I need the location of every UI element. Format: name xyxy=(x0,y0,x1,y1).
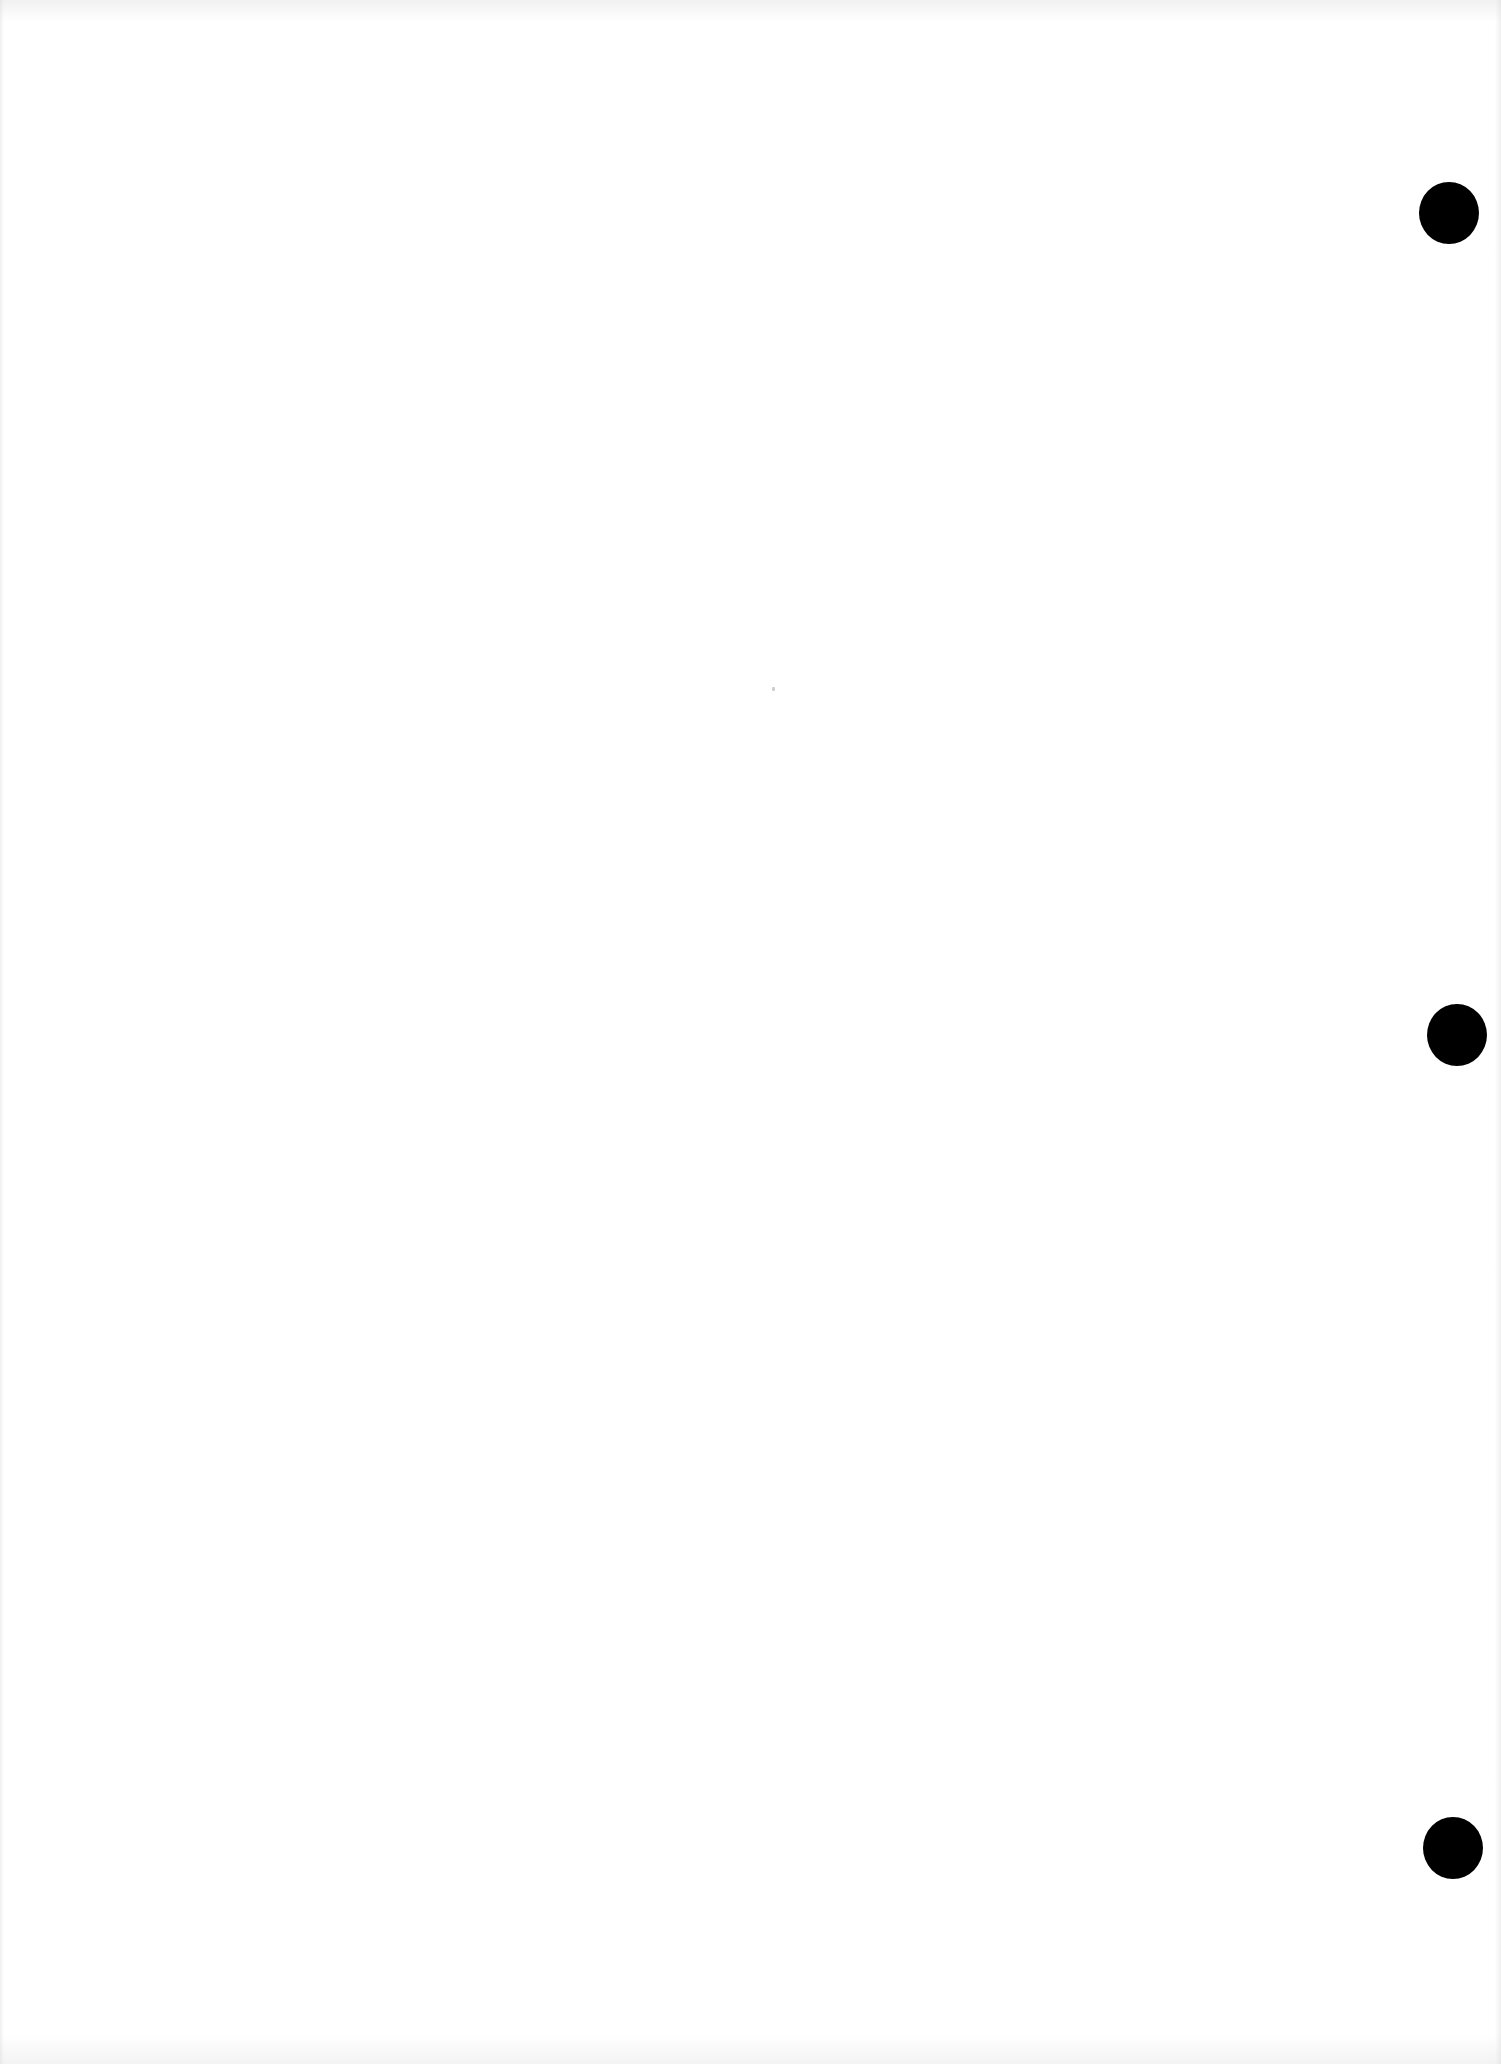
dust-speck xyxy=(772,687,775,691)
punch-hole-top xyxy=(1419,182,1479,244)
blank-page xyxy=(0,0,1501,2064)
scan-edge-right xyxy=(1495,0,1501,2064)
punch-hole-middle xyxy=(1427,1004,1487,1066)
scan-edge-left xyxy=(0,0,4,2064)
scan-edge-bottom xyxy=(0,2034,1501,2064)
punch-hole-bottom xyxy=(1423,1817,1483,1879)
scan-edge-top xyxy=(0,0,1501,22)
